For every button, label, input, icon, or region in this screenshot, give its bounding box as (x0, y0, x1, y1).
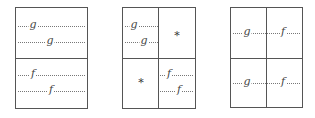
label-g: g (28, 19, 37, 30)
panel-3: g f g f (230, 7, 303, 108)
label-f: f (176, 84, 182, 95)
label-g: g (242, 26, 251, 37)
label-f: f (30, 68, 36, 79)
label-f: f (166, 68, 172, 79)
label-f: f (48, 84, 54, 95)
label-g: g (242, 76, 251, 87)
label-g: g (45, 35, 54, 46)
panel-1: g g f f (15, 7, 88, 109)
panel-2: g g * * f f (122, 7, 196, 109)
star-marker: * (138, 77, 144, 88)
dotted-line (18, 75, 85, 76)
label-f: f (280, 76, 286, 87)
star-marker: * (174, 30, 180, 41)
dotted-line (160, 75, 193, 76)
row-divider (16, 58, 87, 59)
row-divider (123, 58, 195, 59)
column-divider (158, 8, 159, 108)
label-g: g (129, 19, 138, 30)
label-g: g (139, 35, 148, 46)
column-divider (266, 8, 267, 107)
label-f: f (280, 26, 286, 37)
